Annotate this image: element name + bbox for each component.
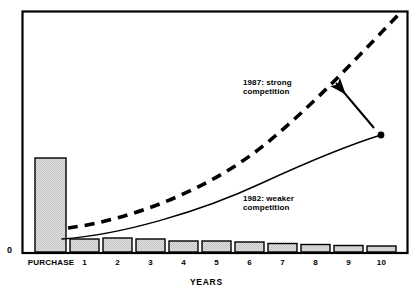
bar-year-5 <box>202 241 231 252</box>
x-tick-label-2: 2 <box>103 258 132 267</box>
bar-year-6 <box>235 242 264 252</box>
annotation-strong-line-1: 1987: strong <box>243 78 292 87</box>
x-tick-label-10: 10 <box>367 258 396 267</box>
bar-year-7 <box>268 244 297 253</box>
bar-year-9 <box>334 246 363 253</box>
annotation-label-strong-competition: 1987: strong competition <box>243 78 292 97</box>
line-1982-endpoint-dot <box>378 132 385 139</box>
x-tick-label-3: 3 <box>136 258 165 267</box>
chart-container: 0 PURCHASE 1 2 3 4 5 6 7 8 9 10 YEARS 19… <box>0 0 418 298</box>
x-tick-label-6: 6 <box>235 258 264 267</box>
annotation-weaker-line-1: 1982: weaker <box>243 194 294 203</box>
bar-year-3 <box>136 239 165 252</box>
bar-year-8 <box>301 245 330 253</box>
x-tick-label-1: 1 <box>70 258 99 267</box>
x-tick-label-9: 9 <box>334 258 363 267</box>
bar-purchase <box>35 158 66 252</box>
line-1982-weaker-competition <box>62 135 381 239</box>
bar-group <box>35 158 396 252</box>
bar-year-1 <box>70 239 99 252</box>
bar-year-10 <box>367 246 396 252</box>
chart-canvas <box>0 0 418 298</box>
bar-year-2 <box>103 238 132 252</box>
bar-year-4 <box>169 241 198 252</box>
annotation-arrow-strong <box>336 83 374 128</box>
annotation-weaker-line-2: competition <box>243 203 294 212</box>
annotation-strong-line-2: competition <box>243 87 292 96</box>
annotation-label-weaker-competition: 1982: weaker competition <box>243 194 294 213</box>
chart-frame <box>23 12 408 254</box>
y-axis-zero-label: 0 <box>7 245 12 256</box>
x-tick-label-8: 8 <box>301 258 330 267</box>
x-tick-label-4: 4 <box>169 258 198 267</box>
x-tick-label-7: 7 <box>268 258 297 267</box>
x-tick-label-5: 5 <box>202 258 231 267</box>
x-axis-title: YEARS <box>190 277 223 287</box>
